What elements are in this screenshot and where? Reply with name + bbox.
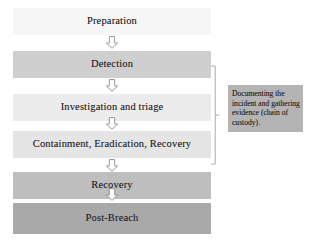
annotation-text: Documenting the incident and gathering e… [232,89,300,127]
bracket-icon [210,65,220,165]
stage-label: Investigation and triage [61,102,164,113]
down-arrow-icon [105,117,119,130]
stage-label: Containment, Eradication, Recovery [33,139,191,150]
down-arrow-icon [105,159,119,172]
diagram-canvas: Preparation Detection Investigation and … [0,0,316,243]
stage-label: Post-Breach [86,213,139,224]
stage-box-post-breach[interactable]: Post-Breach [13,203,211,234]
stage-label: Detection [91,59,133,70]
down-arrow-icon [105,188,119,201]
down-arrow-icon [105,36,119,49]
down-arrow-icon [105,79,119,92]
stage-box-preparation[interactable]: Preparation [13,8,211,35]
stage-label: Preparation [87,16,137,27]
stage-box-detection[interactable]: Detection [13,51,211,78]
annotation-callout[interactable]: Documenting the incident and gathering e… [228,85,303,132]
stage-box-containment-eradication-recovery[interactable]: Containment, Eradication, Recovery [13,131,211,158]
